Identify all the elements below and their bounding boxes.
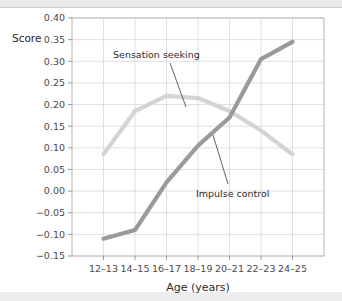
x-tick-label: 18–19 — [184, 263, 213, 274]
annotation-impulse-control: Impulse control — [196, 188, 270, 199]
y-tick-label: −0.15 — [36, 250, 65, 261]
y-tick-label: 0.00 — [44, 185, 65, 196]
y-tick-label: 0.10 — [44, 142, 65, 153]
x-tick-label: 22–23 — [247, 263, 276, 274]
y-tick-label: −0.05 — [36, 207, 65, 218]
line-chart: 0.400.350.300.250.200.150.100.050.00−0.0… — [0, 0, 342, 301]
x-tick-label: 24–25 — [278, 263, 307, 274]
y-tick-label: 0.25 — [44, 77, 65, 88]
y-tick-label: 0.05 — [44, 164, 65, 175]
y-tick-label: −0.10 — [36, 229, 65, 240]
y-axis-ticks: 0.400.350.300.250.200.150.100.050.00−0.0… — [36, 12, 72, 261]
x-axis-ticks: 12–1314–1516–1718–1920–2122–2324–25 — [89, 256, 307, 274]
y-axis-title: Score — [12, 32, 41, 44]
y-tick-label: 0.15 — [44, 121, 65, 132]
x-axis-title: Age (years) — [166, 281, 230, 294]
x-tick-label: 20–21 — [215, 263, 244, 274]
chart-figure: 0.400.350.300.250.200.150.100.050.00−0.0… — [0, 0, 342, 301]
y-tick-label: 0.40 — [44, 12, 65, 23]
x-tick-label: 16–17 — [152, 263, 181, 274]
annotation-sensation-seeking: Sensation seeking — [113, 49, 200, 60]
x-tick-label: 12–13 — [89, 263, 118, 274]
y-tick-label: 0.35 — [44, 34, 65, 45]
y-tick-label: 0.30 — [44, 56, 65, 67]
y-tick-label: 0.20 — [44, 99, 65, 110]
x-tick-label: 14–15 — [121, 263, 150, 274]
